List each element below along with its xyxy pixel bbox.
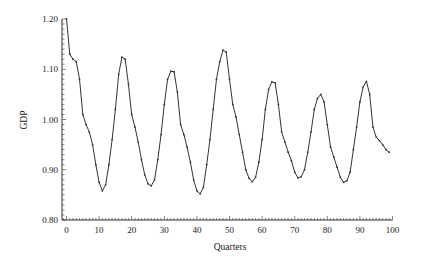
gdp-series-markers xyxy=(66,18,391,195)
y-tick-label: 1.10 xyxy=(42,64,58,74)
y-tick-label: 1.20 xyxy=(42,14,58,24)
x-axis-ticks: 0102030405060708090100 xyxy=(63,216,400,235)
y-tick-label: 0.90 xyxy=(42,165,58,175)
gdp-line-chart: 0102030405060708090100 0.800.901.001.101… xyxy=(0,0,421,263)
x-tick-label: 0 xyxy=(64,225,69,235)
x-tick-label: 60 xyxy=(258,225,268,235)
x-axis-title: Quarters xyxy=(214,242,247,252)
x-tick-label: 40 xyxy=(192,225,202,235)
x-tick-label: 100 xyxy=(386,225,400,235)
x-tick-label: 50 xyxy=(225,225,235,235)
y-tick-label: 0.80 xyxy=(42,215,58,225)
x-tick-label: 20 xyxy=(127,225,137,235)
x-tick-label: 80 xyxy=(323,225,333,235)
x-tick-label: 10 xyxy=(95,225,105,235)
gdp-series-line xyxy=(67,19,390,194)
x-tick-label: 90 xyxy=(355,225,365,235)
x-tick-label: 70 xyxy=(290,225,300,235)
y-axis-title: GDP xyxy=(19,110,29,129)
y-tick-label: 1.00 xyxy=(42,115,58,125)
x-tick-label: 30 xyxy=(160,225,170,235)
axes xyxy=(62,19,393,220)
